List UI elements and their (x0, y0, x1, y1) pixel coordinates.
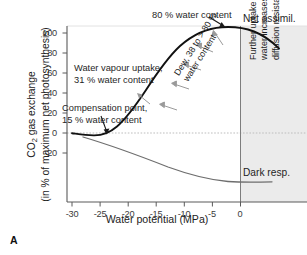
figure-panel-a: 100 80 60 40 20 0 -20 -30 -25 -20 -15 -1… (0, 0, 307, 255)
y-axis-title-co2: CO (26, 142, 37, 157)
annotation-compensation-point: Compensation point, 15 % water content (62, 103, 147, 126)
annotation-compensation-line2: 15 % water content (62, 115, 142, 125)
panel-label-a: A (10, 234, 18, 246)
y-axis-title-subscript: 2 (30, 138, 39, 142)
annotation-further-uptake-resistance: Further uptake of liquid water increases… (248, 0, 282, 60)
annotation-dark-respiration: Dark resp. (243, 167, 290, 179)
y-axis-ticks (63, 33, 68, 153)
y-axis-title-rest: gas exchange (26, 71, 37, 138)
x-axis-title: Water potential (MPa) (62, 213, 252, 225)
annotation-water-vapour-line2: 31 % water content (74, 75, 154, 85)
annotation-water-vapour-line1: Water vapour uptake, (74, 63, 163, 73)
annotation-compensation-line1: Compensation point, (62, 103, 147, 113)
x-axis-ticks (72, 202, 241, 207)
annotation-further-line3: diffusion resistance (271, 0, 282, 60)
y-axis-title: CO2 gas exchange (in % of maximum net ph… (25, 25, 52, 205)
annotation-water-vapour-uptake: Water vapour uptake, 31 % water content (74, 63, 163, 86)
annotation-further-line1: Further uptake of liquid (248, 0, 259, 60)
annotation-further-line2: water increases the (259, 0, 270, 60)
y-axis-title-line2: (in % of maximum net photosynthesis) (39, 25, 52, 205)
